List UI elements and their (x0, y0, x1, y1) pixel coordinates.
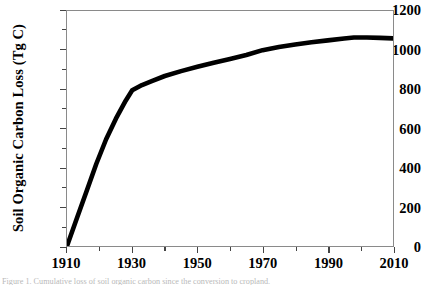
x-tick-mark-1930 (132, 247, 133, 253)
x-tick-mark-1910 (66, 247, 67, 253)
x-tick-mark-2010 (394, 247, 395, 253)
x-minor-tick-1960 (230, 247, 231, 251)
x-minor-tick-2000 (361, 247, 362, 251)
x-tick-label-1950: 1950 (167, 256, 227, 271)
x-tick-label-1990: 1990 (298, 256, 358, 271)
figure-caption: Figure 1. Cumulative loss of soil organi… (2, 276, 419, 285)
plot-area (66, 10, 394, 247)
x-tick-mark-1970 (263, 247, 264, 253)
x-minor-tick-1920 (99, 247, 100, 251)
x-tick-label-1930: 1930 (102, 256, 162, 271)
x-tick-mark-1950 (197, 247, 198, 253)
x-tick-label-1910: 1910 (36, 256, 96, 271)
y-axis-title: Soil Organic Carbon Loss (Tg C) (10, 3, 30, 253)
x-minor-tick-1980 (296, 247, 297, 251)
x-tick-label-1970: 1970 (233, 256, 293, 271)
x-tick-label-2010: 2010 (364, 256, 424, 271)
x-minor-tick-1940 (164, 247, 165, 251)
x-tick-mark-1990 (328, 247, 329, 253)
series-soil-organic-carbon-loss (67, 11, 393, 246)
